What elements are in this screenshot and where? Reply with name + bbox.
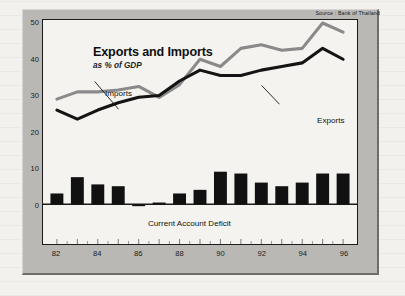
x-axis: 8284868890929496 — [42, 247, 358, 263]
x-tick-label: 82 — [52, 249, 60, 258]
x-tick-label: 92 — [257, 249, 265, 258]
chart-subtitle: as % of GDP — [93, 61, 142, 70]
x-tick-label: 94 — [299, 249, 307, 258]
y-axis: 01020304050 — [22, 19, 42, 245]
y-tick-label: 40 — [31, 54, 39, 63]
y-tick-label: 50 — [31, 18, 39, 27]
y-tick-label: 20 — [31, 127, 39, 136]
x-tick-label: 88 — [175, 249, 183, 258]
x-tick-label: 96 — [340, 249, 348, 258]
plot-area: Exports and Imports as % of GDP Imports … — [42, 19, 358, 245]
current-account-deficit-label: Current Account Deficit — [148, 219, 231, 228]
y-tick-label: 10 — [31, 164, 39, 173]
y-tick-label: 0 — [35, 201, 39, 210]
page-title: Exports and Imports — [93, 45, 213, 59]
y-tick-label: 30 — [31, 91, 39, 100]
exports-leader-line — [262, 85, 280, 104]
imports-series-label: Imports — [105, 89, 132, 98]
x-tick-label: 90 — [216, 249, 224, 258]
source-note: Source : Bank of Thailand — [315, 10, 380, 16]
x-tick-label: 84 — [93, 249, 101, 258]
exports-series-label: Exports — [317, 116, 344, 125]
x-tick-label: 86 — [134, 249, 142, 258]
